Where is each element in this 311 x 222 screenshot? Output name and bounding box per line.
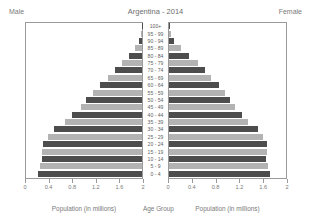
x-axis-tick-label: 0.8 — [68, 183, 76, 192]
age-group-label: 55 - 59 — [143, 90, 168, 96]
bar-male-40-44 — [72, 112, 142, 118]
bar-male-35-39 — [65, 119, 142, 125]
bar-female-75-79 — [169, 60, 198, 66]
bar-male-25-29 — [48, 134, 142, 140]
female-x-axis: 00.40.81.21.62 — [168, 179, 287, 193]
bar-male-90-94 — [139, 38, 142, 44]
x-axis-tick-label: 0.8 — [212, 183, 220, 192]
age-group-label: 65 - 69 — [143, 75, 168, 81]
bar-male-15-19 — [42, 149, 142, 155]
bar-female-65-69 — [169, 75, 211, 81]
bar-female-85-89 — [169, 45, 181, 51]
female-legend-label: Female — [279, 6, 302, 18]
x-axis-tick-label: 0 — [166, 183, 169, 192]
bar-male-70-74 — [115, 67, 142, 73]
female-bar-group — [169, 23, 286, 178]
male-x-axis: 21.61.20.80.40 — [25, 179, 143, 193]
age-group-label: 40 - 44 — [143, 112, 168, 118]
bar-male-45-49 — [81, 104, 142, 110]
bar-female-15-19 — [169, 149, 267, 155]
x-axis-tick-label: 2 — [141, 183, 144, 192]
x-axis-tick-label: 1.2 — [92, 183, 100, 192]
age-group-label: 0 - 4 — [143, 171, 168, 177]
x-axis-tick-label: 0.4 — [45, 183, 53, 192]
bar-female-35-39 — [169, 119, 248, 125]
age-group-label: 35 - 39 — [143, 119, 168, 125]
bar-female-45-49 — [169, 104, 235, 110]
age-group-label: 30 - 34 — [143, 126, 168, 132]
bar-male-60-64 — [100, 82, 142, 88]
bar-female-50-54 — [169, 97, 230, 103]
age-group-label: 60 - 64 — [143, 82, 168, 88]
bar-male-30-34 — [54, 126, 142, 132]
age-group-label: 5 - 9 — [143, 163, 168, 169]
age-group-label: 70 - 74 — [143, 67, 168, 73]
age-group-label: 95 - 99 — [143, 31, 168, 37]
male-bar-group — [26, 23, 142, 178]
age-group-label: 100+ — [143, 23, 168, 29]
bar-male-85-89 — [135, 45, 142, 51]
bar-female-70-74 — [169, 67, 205, 73]
bar-female-60-64 — [169, 82, 219, 88]
age-group-label: 25 - 29 — [143, 134, 168, 140]
population-pyramid-chart: Male Argentina - 2014 Female 100+95 - 99… — [0, 0, 311, 222]
age-group-label: 45 - 49 — [143, 104, 168, 110]
age-group-label: 85 - 89 — [143, 45, 168, 51]
age-group-label: 10 - 14 — [143, 156, 168, 162]
x-axis-tick-label: 1.6 — [116, 183, 124, 192]
age-group-label-column: 100+95 - 9990 - 9485 - 8980 - 8475 - 797… — [143, 23, 168, 178]
bar-female-25-29 — [169, 134, 263, 140]
x-axis-tick-label: 0.4 — [188, 183, 196, 192]
age-group-label: 50 - 54 — [143, 97, 168, 103]
bar-female-30-34 — [169, 126, 258, 132]
bar-female-90-94 — [169, 38, 174, 44]
bar-male-5-9 — [40, 163, 142, 169]
bar-female-5-9 — [169, 163, 268, 169]
x-axis-tick-label: 0 — [23, 183, 26, 192]
page-title: Argentina - 2014 — [0, 6, 311, 18]
age-group-label: 75 - 79 — [143, 60, 168, 66]
bar-male-75-79 — [122, 60, 142, 66]
x-axis-tick-label: 2 — [285, 183, 288, 192]
bar-female-40-44 — [169, 112, 242, 118]
age-group-label: 80 - 84 — [143, 53, 168, 59]
bar-male-80-84 — [129, 53, 142, 59]
bar-female-20-24 — [169, 141, 267, 147]
bar-female-10-14 — [169, 156, 266, 162]
bar-male-50-54 — [86, 97, 142, 103]
female-axis-caption: Population (in millions) — [168, 203, 287, 214]
bar-male-95-99 — [141, 31, 142, 37]
x-axis-tick-label: 1.2 — [236, 183, 244, 192]
bar-female-95-99 — [169, 31, 171, 37]
bar-male-55-59 — [93, 90, 142, 96]
bar-female-0-4 — [169, 171, 270, 177]
age-group-caption: Age Group — [143, 203, 168, 214]
bar-male-65-69 — [108, 75, 142, 81]
x-axis-tick-label: 1.6 — [259, 183, 267, 192]
bar-female-80-84 — [169, 53, 189, 59]
bar-male-0-4 — [38, 171, 142, 177]
age-group-label: 90 - 94 — [143, 38, 168, 44]
male-axis-caption: Population (in millions) — [25, 203, 143, 214]
age-group-label: 15 - 19 — [143, 149, 168, 155]
bar-female-55-59 — [169, 90, 225, 96]
bar-male-10-14 — [42, 156, 142, 162]
age-group-label: 20 - 24 — [143, 141, 168, 147]
bar-male-20-24 — [43, 141, 142, 147]
